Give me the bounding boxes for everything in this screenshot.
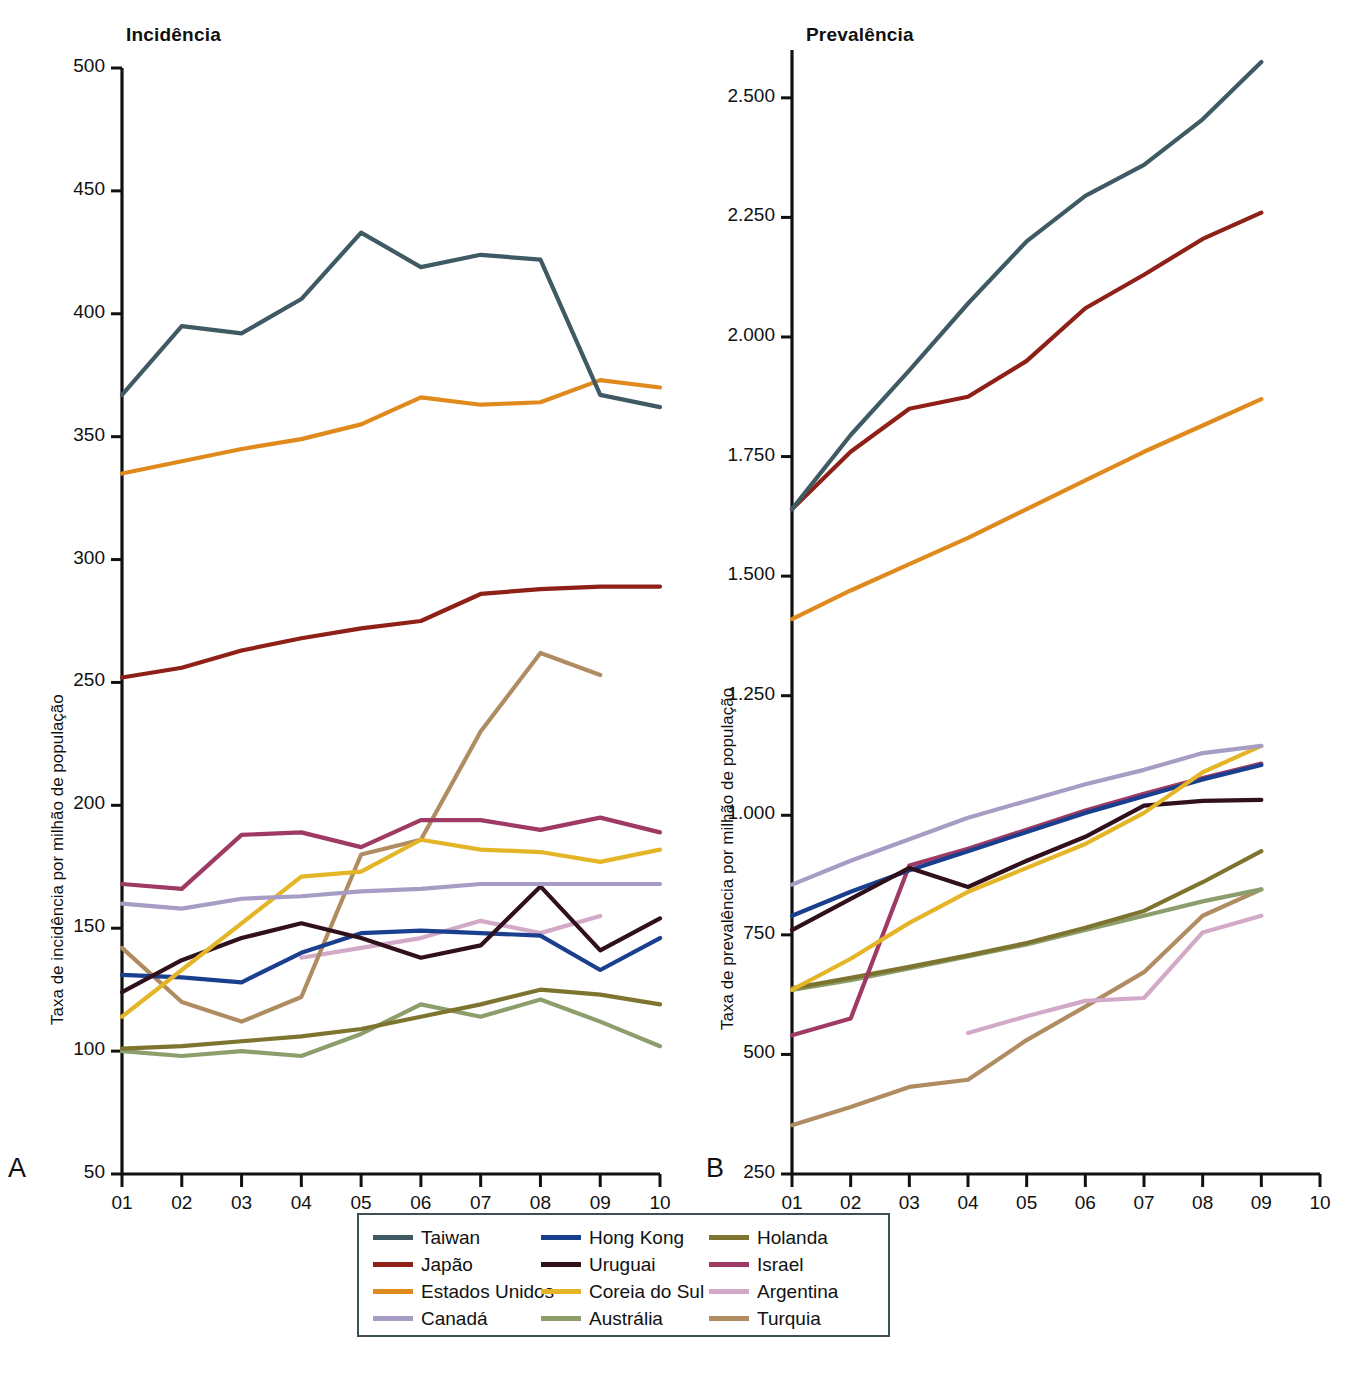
- y-axis-tick-label: 150: [19, 915, 105, 937]
- legend-item-label: Hong Kong: [589, 1228, 684, 1247]
- x-axis-tick-label: 01: [92, 1192, 152, 1214]
- legend-color-swatch: [541, 1262, 581, 1267]
- legend-item: Austrália: [541, 1309, 709, 1328]
- series-line: [122, 587, 660, 678]
- panel-b-plot: [730, 40, 1350, 1200]
- y-axis-tick-label: 1.000: [689, 802, 775, 824]
- legend-item-label: Coreia do Sul: [589, 1282, 704, 1301]
- x-axis-tick-label: 05: [997, 1192, 1057, 1214]
- series-line: [792, 889, 1261, 1125]
- legend-color-swatch: [373, 1235, 413, 1240]
- series-line: [122, 233, 660, 408]
- legend-item: Turquia: [709, 1309, 877, 1328]
- legend-item: Canadá: [373, 1309, 541, 1328]
- legend-grid: TaiwanHong KongHolandaJapãoUruguaiIsrael…: [373, 1224, 883, 1332]
- legend-item: Coreia do Sul: [541, 1282, 709, 1301]
- legend-item: Japão: [373, 1255, 541, 1274]
- y-axis-tick-label: 300: [19, 547, 105, 569]
- x-axis-tick-label: 02: [152, 1192, 212, 1214]
- x-axis-tick-label: 07: [451, 1192, 511, 1214]
- x-axis-tick-label: 06: [391, 1192, 451, 1214]
- legend-item: Uruguai: [541, 1255, 709, 1274]
- y-axis-tick-label: 1.750: [689, 444, 775, 466]
- y-axis-tick-label: 50: [19, 1161, 105, 1183]
- legend-item: Hong Kong: [541, 1228, 709, 1247]
- y-axis-tick-label: 500: [19, 55, 105, 77]
- series-line: [122, 884, 660, 909]
- legend-item-label: Japão: [421, 1255, 473, 1274]
- y-axis-tick-label: 250: [19, 669, 105, 691]
- legend-color-swatch: [709, 1262, 749, 1267]
- y-axis-tick-label: 2.500: [689, 85, 775, 107]
- legend: TaiwanHong KongHolandaJapãoUruguaiIsrael…: [357, 1213, 890, 1337]
- legend-color-swatch: [709, 1235, 749, 1240]
- series-line: [122, 931, 660, 983]
- panel-a-plot: [60, 40, 680, 1200]
- series-line: [122, 380, 660, 473]
- y-axis-tick-label: 1.500: [689, 563, 775, 585]
- figure-root: Incidência A Taxa de incidência por milh…: [0, 0, 1355, 1383]
- legend-color-swatch: [541, 1316, 581, 1321]
- legend-item: Taiwan: [373, 1228, 541, 1247]
- legend-color-swatch: [541, 1235, 581, 1240]
- legend-item-label: Taiwan: [421, 1228, 480, 1247]
- y-axis-tick-label: 400: [19, 301, 105, 323]
- x-axis-tick-label: 06: [1055, 1192, 1115, 1214]
- series-line: [968, 916, 1261, 1033]
- x-axis-tick-label: 08: [510, 1192, 570, 1214]
- x-axis-tick-label: 08: [1173, 1192, 1233, 1214]
- legend-item: Holanda: [709, 1228, 877, 1247]
- y-axis-tick-label: 500: [689, 1041, 775, 1063]
- legend-item-label: Holanda: [757, 1228, 828, 1247]
- y-axis-tick-label: 100: [19, 1038, 105, 1060]
- series-line: [792, 851, 1261, 988]
- legend-item-label: Canadá: [421, 1309, 488, 1328]
- x-axis-tick-label: 10: [630, 1192, 690, 1214]
- x-axis-tick-label: 03: [879, 1192, 939, 1214]
- x-axis-tick-label: 05: [331, 1192, 391, 1214]
- y-axis-tick-label: 250: [689, 1161, 775, 1183]
- series-line: [792, 746, 1261, 990]
- legend-color-swatch: [709, 1316, 749, 1321]
- legend-color-swatch: [373, 1262, 413, 1267]
- series-line: [792, 800, 1261, 930]
- x-axis-tick-label: 10: [1290, 1192, 1350, 1214]
- series-line: [792, 213, 1261, 510]
- legend-item-label: Israel: [757, 1255, 803, 1274]
- y-axis-tick-label: 2.000: [689, 324, 775, 346]
- legend-item-label: Austrália: [589, 1309, 663, 1328]
- x-axis-tick-label: 04: [938, 1192, 998, 1214]
- y-axis-tick-label: 200: [19, 792, 105, 814]
- series-line: [122, 653, 600, 1022]
- legend-item-label: Uruguai: [589, 1255, 656, 1274]
- series-line: [122, 818, 660, 889]
- x-axis-tick-label: 07: [1114, 1192, 1174, 1214]
- legend-item-label: Estados Unidos: [421, 1282, 554, 1301]
- legend-item: Israel: [709, 1255, 877, 1274]
- legend-color-swatch: [373, 1289, 413, 1294]
- y-axis-tick-label: 350: [19, 424, 105, 446]
- legend-item-label: Argentina: [757, 1282, 838, 1301]
- legend-item-label: Turquia: [757, 1309, 821, 1328]
- x-axis-tick-label: 04: [271, 1192, 331, 1214]
- x-axis-tick-label: 09: [1231, 1192, 1291, 1214]
- legend-item: Argentina: [709, 1282, 877, 1301]
- y-axis-tick-label: 1.250: [689, 683, 775, 705]
- series-line: [792, 399, 1261, 619]
- legend-color-swatch: [709, 1289, 749, 1294]
- legend-item: Estados Unidos: [373, 1282, 541, 1301]
- y-axis-tick-label: 750: [689, 922, 775, 944]
- y-axis-tick-label: 450: [19, 178, 105, 200]
- legend-color-swatch: [541, 1289, 581, 1294]
- series-line: [122, 886, 660, 992]
- x-axis-tick-label: 03: [212, 1192, 272, 1214]
- series-line: [792, 746, 1261, 885]
- x-axis-tick-label: 02: [821, 1192, 881, 1214]
- series-line: [792, 764, 1261, 1036]
- y-axis-tick-label: 2.250: [689, 204, 775, 226]
- legend-color-swatch: [373, 1316, 413, 1321]
- x-axis-tick-label: 01: [762, 1192, 822, 1214]
- x-axis-tick-label: 09: [570, 1192, 630, 1214]
